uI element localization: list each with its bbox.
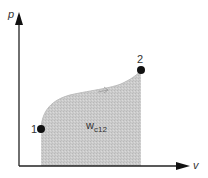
state-point-2-label: 2 xyxy=(137,53,143,65)
pv-diagram: p v 1 2 wc12 xyxy=(0,0,208,178)
work-label-subscript: c12 xyxy=(94,125,107,134)
state-point-1 xyxy=(37,125,45,133)
state-point-2 xyxy=(137,66,145,74)
y-axis-arrow-icon xyxy=(15,12,23,25)
work-label-main: w xyxy=(85,119,94,131)
y-axis-label: p xyxy=(7,8,14,20)
work-area xyxy=(41,70,141,166)
state-point-1-label: 1 xyxy=(31,123,37,135)
x-axis-arrow-icon xyxy=(176,162,190,170)
x-axis-label: v xyxy=(193,159,200,171)
